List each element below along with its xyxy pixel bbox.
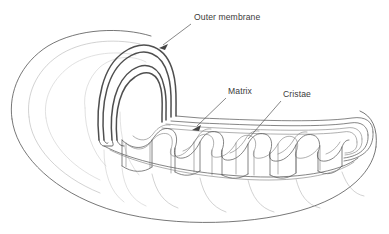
mitochondrion-diagram: Outer membrane Matrix Cristae <box>0 0 389 234</box>
label-outer-membrane: Outer membrane <box>194 12 260 22</box>
mitochondrion-illustration: Outer membrane Matrix Cristae <box>0 0 389 234</box>
label-matrix: Matrix <box>228 86 253 96</box>
leader-line-outer-membrane <box>163 24 191 45</box>
label-cristae: Cristae <box>283 89 311 99</box>
leader-outer-membrane <box>159 24 191 50</box>
